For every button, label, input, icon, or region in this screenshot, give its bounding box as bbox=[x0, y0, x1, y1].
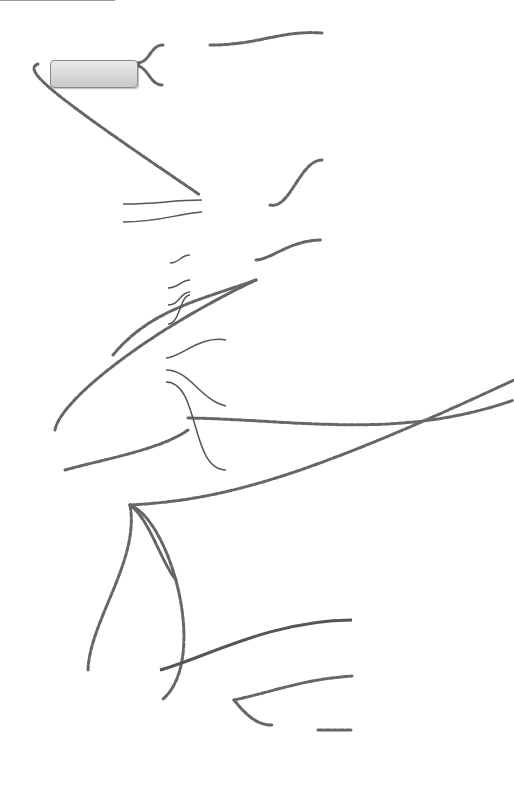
wire-count bbox=[166, 382, 226, 470]
wire-flip-panel bbox=[210, 33, 322, 45]
wire-flatten-data bbox=[160, 620, 352, 670]
wire-sift-out0 bbox=[188, 400, 514, 425]
wire-length bbox=[166, 370, 226, 406]
wire-extx bbox=[168, 280, 190, 288]
wire-area-panel bbox=[137, 65, 163, 85]
wire-slider-seed bbox=[123, 212, 202, 222]
wire-exty bbox=[168, 292, 190, 305]
wire-plane bbox=[170, 255, 190, 263]
wire-clean-out bbox=[130, 380, 514, 505]
wire-paths bbox=[166, 339, 226, 358]
wires-layer bbox=[0, 0, 514, 803]
wire-points-tree bbox=[113, 280, 256, 355]
wire-unflatten-data bbox=[234, 676, 352, 700]
wire-tree-panel bbox=[55, 280, 256, 430]
wire-clean-panel bbox=[130, 505, 176, 580]
wire-sift-out1 bbox=[65, 430, 188, 470]
wire-pop-panel bbox=[270, 160, 322, 205]
wire-clean-flatten bbox=[88, 505, 131, 670]
wire-area-flip bbox=[137, 45, 163, 63]
wire-unflatten-simplify bbox=[234, 700, 272, 725]
wire-cells bbox=[256, 240, 322, 260]
wire-clean-unflatten bbox=[130, 505, 184, 700]
wire-size bbox=[168, 295, 190, 324]
area-component[interactable] bbox=[50, 60, 138, 88]
wire-slider-count bbox=[123, 200, 202, 204]
top-divider bbox=[0, 0, 115, 1]
